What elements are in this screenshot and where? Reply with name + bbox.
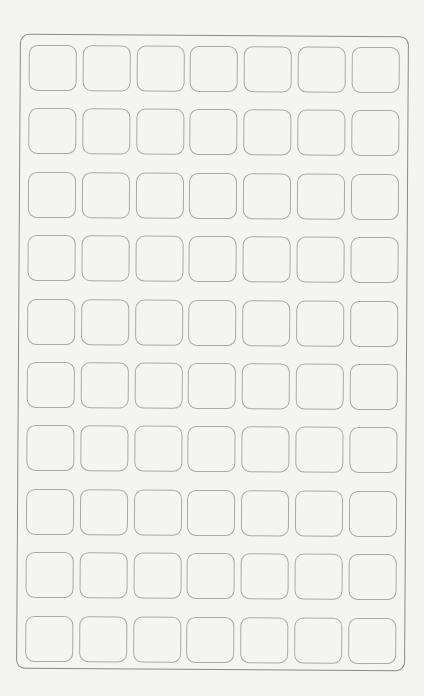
grid-cell	[243, 173, 291, 219]
grid-cell	[27, 235, 75, 281]
grid-cell	[350, 300, 398, 346]
grid-cell	[351, 47, 399, 93]
grid-cell	[350, 237, 398, 283]
grid-cell	[187, 553, 235, 599]
grid-cell	[243, 236, 291, 282]
grid-cell	[29, 45, 77, 91]
grid-cell	[295, 490, 343, 536]
grid-cell	[135, 236, 183, 282]
grid-cell	[296, 363, 344, 409]
grid-cell	[244, 46, 292, 92]
grid-cell	[80, 426, 128, 472]
grid-cell	[136, 109, 184, 155]
grid-cell	[27, 298, 75, 344]
grid-cell	[349, 364, 397, 410]
grid-cell	[28, 108, 76, 154]
grid-cell	[133, 553, 181, 599]
grid-cell	[186, 616, 234, 662]
grid-cell	[80, 489, 128, 535]
grid-cell	[81, 235, 129, 281]
grid-cell	[26, 489, 74, 535]
grid-cell	[242, 300, 290, 346]
grid-cell	[26, 425, 74, 471]
grid-cell	[134, 362, 182, 408]
grid-cell	[28, 172, 76, 218]
grid-cell	[133, 616, 181, 662]
grid-cell	[188, 363, 236, 409]
grid-cell	[296, 237, 344, 283]
grid-cell	[297, 173, 345, 219]
grid-cell	[294, 554, 342, 600]
grid-cell	[188, 299, 236, 345]
grid-cell	[241, 490, 289, 536]
grid-cell	[295, 427, 343, 473]
grid-cell	[243, 110, 291, 156]
grid-cell	[25, 552, 73, 598]
grid-cell	[136, 46, 184, 92]
grid-cell	[294, 617, 342, 663]
grid-cell	[133, 489, 181, 535]
grid-cell	[241, 553, 289, 599]
grid-cell	[27, 362, 75, 408]
grid-sheet	[16, 34, 409, 671]
grid-cell	[348, 554, 396, 600]
grid-cell	[80, 362, 128, 408]
grid-cell	[240, 617, 288, 663]
grid-cell	[189, 173, 237, 219]
grid-cell	[298, 47, 346, 93]
grid-cell	[79, 616, 127, 662]
cell-grid	[25, 45, 400, 664]
grid-cell	[81, 299, 129, 345]
grid-cell	[241, 427, 289, 473]
grid-cell	[242, 363, 290, 409]
grid-cell	[190, 109, 238, 155]
grid-cell	[296, 300, 344, 346]
grid-cell	[134, 426, 182, 472]
grid-cell	[82, 109, 130, 155]
grid-cell	[190, 46, 238, 92]
grid-cell	[79, 552, 127, 598]
grid-cell	[82, 172, 130, 218]
grid-cell	[297, 110, 345, 156]
grid-cell	[135, 172, 183, 218]
grid-cell	[349, 491, 397, 537]
grid-cell	[351, 110, 399, 156]
grid-cell	[25, 615, 73, 661]
grid-cell	[135, 299, 183, 345]
grid-cell	[187, 490, 235, 536]
grid-cell	[189, 236, 237, 282]
grid-cell	[349, 427, 397, 473]
grid-cell	[351, 174, 399, 220]
grid-cell	[348, 617, 396, 663]
grid-cell	[188, 426, 236, 472]
grid-cell	[82, 45, 130, 91]
